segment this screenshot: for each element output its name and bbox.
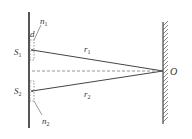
ray-r1 bbox=[32, 50, 163, 71]
label-r2: r2 bbox=[84, 89, 91, 100]
n2-leader bbox=[34, 101, 42, 115]
label-n2: n2 bbox=[42, 116, 50, 127]
ray-r2 bbox=[32, 71, 163, 91]
interference-diagram: n1 d S1 S2 n2 r1 r2 O bbox=[0, 0, 192, 139]
label-d: d bbox=[30, 29, 35, 39]
label-s1: S1 bbox=[14, 47, 22, 58]
label-s2: S2 bbox=[14, 86, 22, 97]
n1-leader bbox=[34, 25, 41, 40]
label-n1: n1 bbox=[40, 16, 48, 27]
screen bbox=[163, 21, 168, 124]
label-o: O bbox=[170, 66, 177, 77]
label-r1: r1 bbox=[84, 44, 91, 55]
